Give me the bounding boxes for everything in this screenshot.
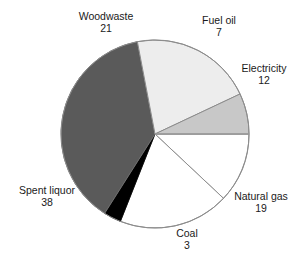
slice-label-fuel-oil-value: 7 [183,26,255,38]
pie-chart: Woodwaste 21 Fuel oil 7 Electricity 12 N… [0,0,302,263]
slice-label-natural-gas: Natural gas 19 [222,190,300,215]
slice-label-spent-liquor-value: 38 [4,196,90,208]
slice-label-woodwaste-value: 21 [61,22,151,34]
slice-label-coal-value: 3 [156,239,218,251]
slice-label-woodwaste: Woodwaste 21 [61,10,151,35]
slice-label-fuel-oil-name: Fuel oil [183,14,255,26]
slice-label-natural-gas-name: Natural gas [222,190,300,202]
slice-label-fuel-oil: Fuel oil 7 [183,14,255,39]
slice-label-electricity: Electricity 12 [229,62,299,87]
slice-label-electricity-value: 12 [229,74,299,86]
slice-label-coal-name: Coal [156,227,218,239]
slice-label-woodwaste-name: Woodwaste [61,10,151,22]
slice-label-spent-liquor-name: Spent liquor [4,184,90,196]
slice-label-natural-gas-value: 19 [222,202,300,214]
slice-label-coal: Coal 3 [156,227,218,252]
slice-label-spent-liquor: Spent liquor 38 [4,184,90,209]
pie-chart-graphic [0,0,302,263]
slice-label-electricity-name: Electricity [229,62,299,74]
